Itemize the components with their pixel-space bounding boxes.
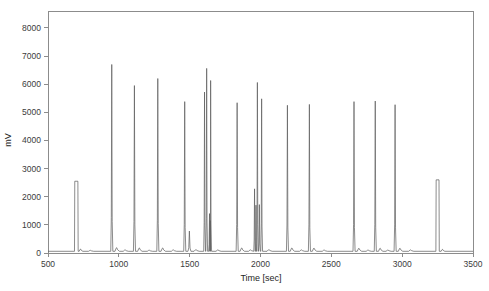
y-tick-label: 1000: [22, 220, 41, 230]
x-tick-label: 2000: [251, 259, 270, 269]
y-tick-label: 6000: [22, 79, 41, 89]
detector-signal-trace: [48, 64, 473, 251]
y-tick-label: 2000: [22, 192, 41, 202]
y-tick-label: 0: [36, 248, 41, 258]
y-axis-ticks: [44, 28, 48, 253]
x-tick-label: 3500: [464, 259, 483, 269]
x-axis-title: Time [sec]: [240, 273, 281, 283]
y-axis-tick-labels: 010002000300040005000600070008000: [22, 23, 41, 258]
x-tick-label: 500: [41, 259, 55, 269]
x-axis-ticks: [48, 253, 473, 257]
y-axis-title: mV: [3, 133, 13, 147]
x-tick-label: 1000: [109, 259, 128, 269]
y-tick-label: 4000: [22, 135, 41, 145]
data-series-group: [48, 64, 473, 251]
x-axis-tick-labels: 500100015002000250030003500: [41, 259, 483, 269]
y-tick-label: 5000: [22, 107, 41, 117]
y-tick-label: 7000: [22, 51, 41, 61]
x-tick-label: 2500: [322, 259, 341, 269]
y-tick-label: 8000: [22, 23, 41, 33]
x-tick-label: 1500: [180, 259, 199, 269]
chart-canvas: 500100015002000250030003500 010002000300…: [0, 0, 489, 291]
y-tick-label: 3000: [22, 164, 41, 174]
x-tick-label: 3000: [393, 259, 412, 269]
chromatogram-figure: 500100015002000250030003500 010002000300…: [0, 0, 489, 291]
